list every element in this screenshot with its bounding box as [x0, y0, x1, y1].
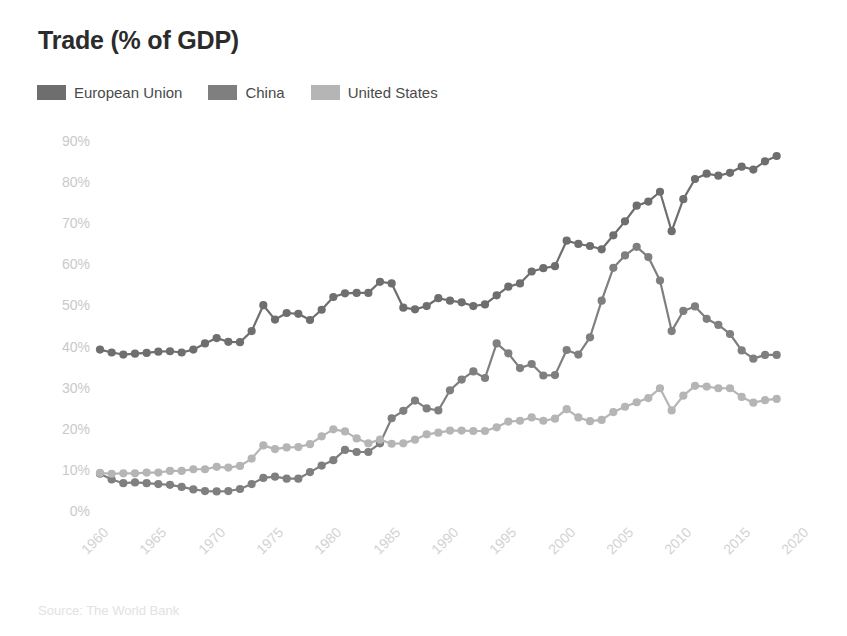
series-data-point[interactable]	[539, 264, 547, 272]
series-data-point[interactable]	[189, 346, 197, 354]
series-data-point[interactable]	[341, 427, 349, 435]
series-data-point[interactable]	[726, 330, 734, 338]
series-data-point[interactable]	[528, 360, 536, 368]
series-data-point[interactable]	[609, 231, 617, 239]
series-data-point[interactable]	[621, 217, 629, 225]
series-data-point[interactable]	[528, 267, 536, 275]
series-data-point[interactable]	[178, 483, 186, 491]
series-data-point[interactable]	[458, 427, 466, 435]
series-data-point[interactable]	[119, 469, 127, 477]
series-data-point[interactable]	[679, 307, 687, 315]
series-data-point[interactable]	[469, 367, 477, 375]
series-data-point[interactable]	[131, 478, 139, 486]
series-data-point[interactable]	[341, 289, 349, 297]
series-data-point[interactable]	[178, 467, 186, 475]
series-data-point[interactable]	[213, 487, 221, 495]
series-data-point[interactable]	[609, 264, 617, 272]
series-data-point[interactable]	[738, 163, 746, 171]
series-data-point[interactable]	[469, 427, 477, 435]
series-data-point[interactable]	[353, 448, 361, 456]
series-data-point[interactable]	[388, 440, 396, 448]
series-data-point[interactable]	[656, 276, 664, 284]
series-data-point[interactable]	[644, 253, 652, 261]
series-data-point[interactable]	[236, 485, 244, 493]
series-data-point[interactable]	[154, 348, 162, 356]
series-data-point[interactable]	[598, 297, 606, 305]
series-data-point[interactable]	[399, 407, 407, 415]
series-data-point[interactable]	[691, 302, 699, 310]
series-data-point[interactable]	[201, 465, 209, 473]
series-data-point[interactable]	[703, 170, 711, 178]
series-data-point[interactable]	[376, 436, 384, 444]
series-data-point[interactable]	[318, 306, 326, 314]
series-data-point[interactable]	[621, 403, 629, 411]
series-data-point[interactable]	[504, 283, 512, 291]
series-data-point[interactable]	[493, 291, 501, 299]
series-data-point[interactable]	[691, 382, 699, 390]
series-data-point[interactable]	[259, 474, 267, 482]
series-data-point[interactable]	[481, 427, 489, 435]
series-data-point[interactable]	[236, 338, 244, 346]
series-data-point[interactable]	[446, 427, 454, 435]
series-data-point[interactable]	[773, 395, 781, 403]
series-data-point[interactable]	[574, 240, 582, 248]
series-data-point[interactable]	[294, 443, 302, 451]
series-data-point[interactable]	[493, 423, 501, 431]
series-data-point[interactable]	[154, 480, 162, 488]
series-data-point[interactable]	[773, 351, 781, 359]
series-data-point[interactable]	[761, 157, 769, 165]
series-data-point[interactable]	[563, 346, 571, 354]
series-data-point[interactable]	[283, 443, 291, 451]
series-data-point[interactable]	[434, 294, 442, 302]
series-data-point[interactable]	[283, 475, 291, 483]
series-data-point[interactable]	[644, 198, 652, 206]
series-data-point[interactable]	[236, 462, 244, 470]
series-data-point[interactable]	[318, 432, 326, 440]
series-data-point[interactable]	[329, 456, 337, 464]
series-data-point[interactable]	[201, 487, 209, 495]
series-data-point[interactable]	[609, 408, 617, 416]
series-data-point[interactable]	[364, 448, 372, 456]
series-data-point[interactable]	[738, 393, 746, 401]
series-data-point[interactable]	[551, 371, 559, 379]
series-data-point[interactable]	[668, 406, 676, 414]
series-data-point[interactable]	[341, 446, 349, 454]
series-data-point[interactable]	[96, 346, 104, 354]
series-data-point[interactable]	[563, 237, 571, 245]
series-data-point[interactable]	[458, 376, 466, 384]
series-data-point[interactable]	[633, 243, 641, 251]
series-data-point[interactable]	[668, 227, 676, 235]
series-data-point[interactable]	[201, 339, 209, 347]
series-data-point[interactable]	[166, 347, 174, 355]
series-data-point[interactable]	[458, 298, 466, 306]
series-data-point[interactable]	[306, 468, 314, 476]
series-data-point[interactable]	[329, 293, 337, 301]
series-data-point[interactable]	[294, 310, 302, 318]
series-data-point[interactable]	[213, 463, 221, 471]
series-data-point[interactable]	[178, 348, 186, 356]
series-data-point[interactable]	[434, 406, 442, 414]
series-data-point[interactable]	[749, 399, 757, 407]
series-data-point[interactable]	[108, 348, 116, 356]
series-data-point[interactable]	[119, 479, 127, 487]
series-data-point[interactable]	[423, 430, 431, 438]
series-data-point[interactable]	[399, 304, 407, 312]
series-data-point[interactable]	[633, 398, 641, 406]
series-data-point[interactable]	[271, 473, 279, 481]
series-data-point[interactable]	[411, 396, 419, 404]
series-data-point[interactable]	[143, 349, 151, 357]
series-data-point[interactable]	[481, 300, 489, 308]
series-data-point[interactable]	[656, 384, 664, 392]
series-data-point[interactable]	[353, 434, 361, 442]
series-data-point[interactable]	[469, 302, 477, 310]
series-data-point[interactable]	[551, 415, 559, 423]
series-data-point[interactable]	[598, 245, 606, 253]
series-data-point[interactable]	[528, 413, 536, 421]
series-data-point[interactable]	[224, 487, 232, 495]
series-data-point[interactable]	[446, 386, 454, 394]
series-data-point[interactable]	[423, 302, 431, 310]
series-data-point[interactable]	[224, 338, 232, 346]
series-data-point[interactable]	[166, 467, 174, 475]
series-data-point[interactable]	[329, 425, 337, 433]
series-data-point[interactable]	[108, 470, 116, 478]
